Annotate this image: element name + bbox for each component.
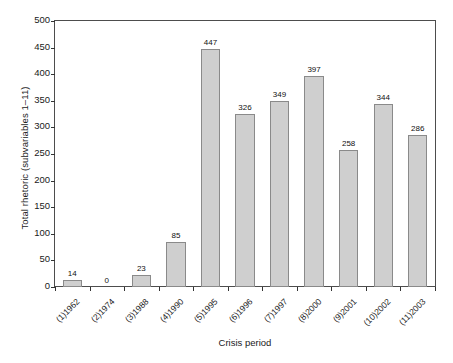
- bar-group: 14: [55, 21, 90, 287]
- bar-group: 397: [297, 21, 332, 287]
- y-axis-tick-label: 400: [14, 68, 50, 78]
- y-axis-tick-label: 350: [14, 95, 50, 105]
- y-axis-tick-label: 300: [14, 121, 50, 131]
- bar-group: 85: [159, 21, 194, 287]
- x-axis-tick-mark: [400, 287, 401, 291]
- x-axis-tick-mark: [297, 287, 298, 291]
- bar[interactable]: [304, 76, 323, 287]
- bar-value-label: 0: [90, 276, 125, 285]
- y-axis-tick-label: 0: [14, 281, 50, 291]
- bar[interactable]: [374, 104, 393, 287]
- y-axis-tick-label-group: 050100150200250300350400450500: [14, 20, 50, 287]
- bar-value-label: 344: [366, 93, 401, 102]
- bar[interactable]: [201, 49, 220, 287]
- bar[interactable]: [63, 280, 82, 287]
- bar-value-label: 14: [55, 269, 90, 278]
- bar[interactable]: [166, 242, 185, 287]
- x-axis-tick-mark: [435, 287, 436, 291]
- x-axis-tick-mark: [228, 287, 229, 291]
- y-axis-tick-mark: [51, 207, 55, 208]
- bar-group: 258: [331, 21, 366, 287]
- x-axis-tick-mark: [331, 287, 332, 291]
- bar-value-label: 397: [297, 65, 332, 74]
- x-axis-title: Crisis period: [54, 337, 436, 349]
- y-axis-tick-mark: [51, 181, 55, 182]
- bar-group: 447: [193, 21, 228, 287]
- bar-value-label: 326: [228, 103, 263, 112]
- y-axis-tick-label: 250: [14, 148, 50, 158]
- x-axis-tick-mark: [55, 287, 56, 291]
- y-axis-tick-label: 150: [14, 201, 50, 211]
- bar-group: 23: [124, 21, 159, 287]
- bar[interactable]: [235, 114, 254, 287]
- x-axis-tick-mark: [124, 287, 125, 291]
- bar-group: 344: [366, 21, 401, 287]
- x-axis-tick-mark: [366, 287, 367, 291]
- y-axis-tick-mark: [51, 48, 55, 49]
- y-axis-tick-mark: [51, 74, 55, 75]
- bar-group: 326: [228, 21, 263, 287]
- x-axis-tick-mark: [262, 287, 263, 291]
- bar[interactable]: [132, 275, 151, 287]
- bar[interactable]: [408, 135, 427, 287]
- bar[interactable]: [339, 150, 358, 287]
- bar-value-label: 85: [159, 231, 194, 240]
- y-axis-tick-label: 450: [14, 42, 50, 52]
- x-axis-tick-mark: [90, 287, 91, 291]
- y-axis-tick-label: 500: [14, 15, 50, 25]
- bar-value-label: 447: [193, 38, 228, 47]
- bar-value-label: 23: [124, 264, 159, 273]
- bar-group: 0: [90, 21, 125, 287]
- bar-value-label: 349: [262, 90, 297, 99]
- y-axis-tick-label: 50: [14, 254, 50, 264]
- y-axis-tick-label: 200: [14, 175, 50, 185]
- y-axis-tick-mark: [51, 101, 55, 102]
- y-axis-tick-mark: [51, 127, 55, 128]
- bar-group: 286: [400, 21, 435, 287]
- bar-value-label: 258: [331, 139, 366, 148]
- y-axis-tick-mark: [51, 234, 55, 235]
- x-axis-tick-mark: [193, 287, 194, 291]
- x-axis-tick-mark: [159, 287, 160, 291]
- bars-layer: 1402385447326349397258344286: [55, 21, 435, 287]
- y-axis-tick-label: 100: [14, 228, 50, 238]
- y-axis-tick-mark: [51, 154, 55, 155]
- bar-chart-figure: Total rhetoric (subvariables 1–11) 05010…: [0, 0, 453, 363]
- y-axis-tick-mark: [51, 21, 55, 22]
- bar-value-label: 286: [400, 124, 435, 133]
- bar-group: 349: [262, 21, 297, 287]
- y-axis-tick-mark: [51, 260, 55, 261]
- bar[interactable]: [270, 101, 289, 287]
